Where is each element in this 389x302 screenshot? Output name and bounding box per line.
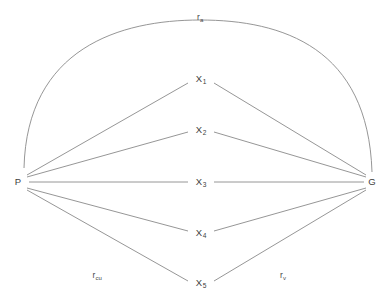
node-label-x4-sub: 4	[203, 232, 207, 239]
node-label-x5-base: X	[196, 277, 203, 288]
node-label-g: G	[368, 177, 376, 187]
edge-x4-g	[214, 188, 366, 231]
node-label-x1-sub: 1	[203, 78, 207, 85]
edge-x5-g	[214, 190, 366, 281]
edge-p-x4	[27, 188, 188, 231]
node-label-x5: X5	[196, 278, 206, 288]
edge-x1-g	[214, 83, 366, 175]
node-label-x4: X4	[196, 228, 206, 238]
node-label-x2-sub: 2	[203, 129, 207, 136]
node-label-x2: X2	[196, 125, 206, 135]
edge-x2-g	[214, 132, 366, 177]
edge-label-r-a-sub: a	[200, 17, 203, 23]
node-label-x1: X1	[196, 74, 206, 84]
node-label-x5-sub: 5	[203, 282, 207, 289]
node-label-x4-base: X	[196, 227, 203, 238]
edge-label-r-v-sub: v	[283, 275, 286, 281]
edge-label-r-a: ra	[197, 13, 203, 21]
node-label-x3-sub: 3	[203, 181, 207, 188]
node-label-x1-base: X	[196, 73, 203, 84]
edge-label-r-cu: rcu	[92, 271, 101, 279]
node-label-x3-base: X	[196, 176, 203, 187]
path-diagram: P G X1 X2 X3 X4 X5 ra rcu rv	[0, 0, 389, 302]
diagram-canvas	[0, 0, 389, 302]
edge-p-x2	[27, 132, 188, 177]
edge-label-r-v: rv	[280, 271, 286, 279]
node-label-p: P	[15, 177, 22, 187]
edge-p-x5	[27, 190, 188, 281]
edge-arc-p-g	[24, 20, 372, 172]
edge-label-r-cu-sub: cu	[95, 275, 101, 281]
edge-p-x1	[27, 83, 188, 175]
node-label-x2-base: X	[196, 124, 203, 135]
node-label-x3: X3	[196, 177, 206, 187]
